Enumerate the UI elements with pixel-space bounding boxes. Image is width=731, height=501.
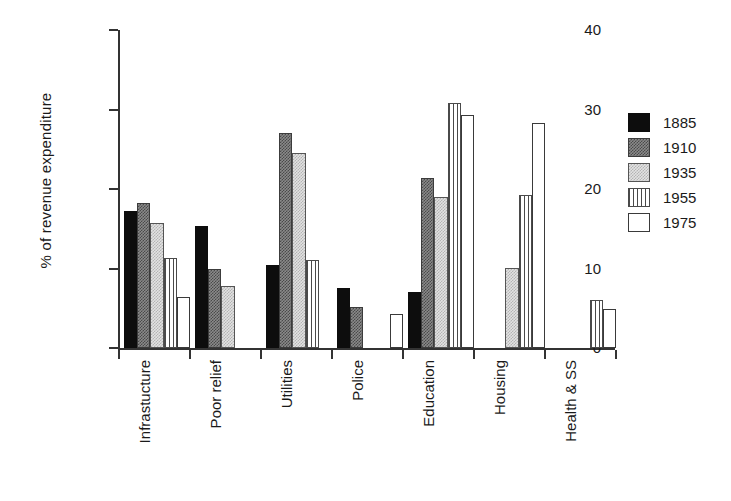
- legend-swatch-icon: [628, 163, 650, 182]
- bar: [137, 203, 150, 348]
- legend-item-1885: 1885: [628, 110, 696, 135]
- bar: [195, 226, 208, 348]
- bar: [408, 292, 421, 348]
- bar: [164, 258, 177, 348]
- bar: [337, 288, 350, 348]
- bar: [519, 195, 532, 348]
- legend-label: 1935: [663, 164, 696, 181]
- x-axis-category-label: Police: [349, 360, 366, 401]
- legend-item-1955: 1955: [628, 185, 696, 210]
- y-axis-tick: [109, 188, 118, 190]
- legend-label: 1955: [663, 189, 696, 206]
- legend-item-1935: 1935: [628, 160, 696, 185]
- y-axis-tick-label: 30: [584, 102, 601, 117]
- bar-chart-figure: % of revenue expenditure 010203040 Infra…: [0, 0, 731, 501]
- y-axis-tick: [109, 347, 118, 349]
- bar: [434, 197, 447, 348]
- x-axis-category-label: Poor relief: [207, 360, 224, 428]
- legend-label: 1975: [663, 214, 696, 231]
- legend-swatch-icon: [628, 213, 650, 232]
- y-axis-tick-label: 20: [584, 181, 601, 196]
- x-axis-tick: [615, 350, 617, 359]
- bar: [221, 286, 234, 348]
- bar: [350, 307, 363, 348]
- plot-area: 010203040: [118, 30, 615, 348]
- x-axis-line: [118, 348, 615, 350]
- bar: [448, 103, 461, 348]
- bar: [306, 260, 319, 348]
- y-axis-line: [118, 30, 120, 349]
- x-axis-tick: [331, 350, 333, 359]
- legend-item-1910: 1910: [628, 135, 696, 160]
- x-axis-tick: [473, 350, 475, 359]
- bar: [150, 223, 163, 348]
- legend-label: 1910: [663, 139, 696, 156]
- x-axis-tick: [189, 350, 191, 359]
- bar: [266, 265, 279, 348]
- x-axis-tick: [260, 350, 262, 359]
- bar: [461, 115, 474, 348]
- x-axis-tick: [402, 350, 404, 359]
- x-axis-category-label: Infrastucture: [136, 360, 153, 443]
- y-axis-tick: [109, 29, 118, 31]
- bar: [124, 211, 137, 348]
- x-axis-category-label: Housing: [491, 360, 508, 415]
- y-axis-tick: [109, 268, 118, 270]
- bar: [177, 297, 190, 348]
- y-axis-tick-label: 40: [584, 22, 601, 37]
- y-axis-title: % of revenue expenditure: [37, 16, 54, 346]
- bar: [421, 178, 434, 348]
- chart-legend: 18851910193519551975: [628, 110, 696, 235]
- bar: [390, 314, 403, 348]
- legend-swatch-icon: [628, 113, 650, 132]
- bar: [279, 133, 292, 348]
- bar: [603, 309, 616, 348]
- x-axis-category-label: Utilities: [278, 360, 295, 408]
- bar: [590, 300, 603, 348]
- x-axis-tick: [544, 350, 546, 359]
- legend-label: 1885: [663, 114, 696, 131]
- y-axis-tick-label: 10: [584, 261, 601, 276]
- bar: [292, 153, 305, 348]
- x-axis-category-label: Education: [420, 360, 437, 427]
- bar: [208, 269, 221, 349]
- legend-swatch-icon: [628, 188, 650, 207]
- x-axis-tick: [118, 350, 120, 359]
- legend-item-1975: 1975: [628, 210, 696, 235]
- x-axis-category-label: Health & SS: [562, 360, 579, 442]
- bar: [505, 268, 518, 348]
- legend-swatch-icon: [628, 138, 650, 157]
- y-axis-tick: [109, 109, 118, 111]
- bar: [532, 123, 545, 348]
